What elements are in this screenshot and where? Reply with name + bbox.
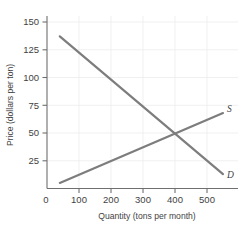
ytick-label-50: 50 bbox=[28, 127, 39, 138]
ytick-label-25: 25 bbox=[28, 155, 39, 166]
xtick-label-200: 200 bbox=[103, 194, 119, 205]
gridlines-horizontal bbox=[47, 22, 238, 161]
x-axis-title: Quantity (tons per month) bbox=[98, 211, 196, 221]
supply-curve-label: S bbox=[227, 104, 232, 114]
supply-demand-chart: 150 125 100 75 50 25 0 100 200 300 400 5… bbox=[0, 0, 245, 233]
demand-curve-label: D bbox=[226, 170, 234, 180]
xtick-label-500: 500 bbox=[199, 194, 215, 205]
ytick-label-125: 125 bbox=[23, 44, 39, 55]
xtick-label-400: 400 bbox=[167, 194, 183, 205]
xtick-label-100: 100 bbox=[71, 194, 87, 205]
y-axis-title: Price (dollars per ton) bbox=[5, 64, 15, 146]
ytick-label-75: 75 bbox=[28, 100, 39, 111]
xtick-label-0: 0 bbox=[43, 194, 48, 205]
xtick-label-300: 300 bbox=[135, 194, 151, 205]
x-axis-ticks bbox=[79, 189, 207, 194]
gridlines-vertical bbox=[79, 16, 207, 189]
y-axis-ticks bbox=[43, 22, 48, 161]
chart-svg: 150 125 100 75 50 25 0 100 200 300 400 5… bbox=[0, 0, 245, 233]
ytick-label-100: 100 bbox=[23, 72, 39, 83]
supply-curve bbox=[60, 113, 223, 183]
ytick-label-150: 150 bbox=[23, 16, 39, 27]
